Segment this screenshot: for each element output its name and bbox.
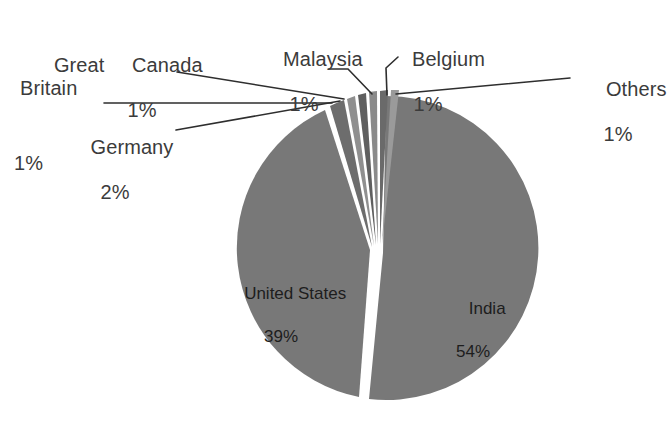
- pie-slice-india[interactable]: [369, 96, 538, 400]
- pie-chart: Great Britain 1% Canada 1% Germany 2% Ma…: [0, 0, 670, 435]
- leader-line-others: [396, 78, 570, 94]
- pie-slices: [237, 90, 539, 400]
- leader-line-malaysia: [329, 69, 372, 94]
- pie-chart-canvas: [0, 0, 670, 435]
- leader-line-canada: [177, 72, 344, 99]
- leader-line-belgium: [386, 57, 398, 95]
